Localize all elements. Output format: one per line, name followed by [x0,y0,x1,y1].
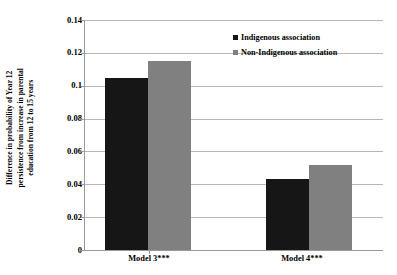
y-axis-tick-label: 0.04 [46,180,82,189]
y-axis-title: Difference in probability of Year 12 per… [0,0,42,255]
legend-label-non-indigenous: Non-Indigenous association [241,48,337,57]
legend: Indigenous association Non-Indigenous as… [233,30,337,60]
bar-indigenous-group-1 [105,78,148,251]
y-axis-tick-label: 0.14 [46,16,82,25]
legend-item-non-indigenous[interactable]: Non-Indigenous association [233,45,337,60]
y-axis-title-line-2: persistence from increase in parental [16,68,27,187]
y-axis-tick-label: 0 [46,246,82,255]
x-axis-label-model-3: Model 3*** [84,254,214,263]
y-axis-tick-mark [81,53,85,54]
y-axis-tick-label: 0.08 [46,114,82,123]
y-axis-tick-labels: 00.020.040.060.080.10.120.14 [44,0,82,275]
legend-label-indigenous: Indigenous association [241,33,320,42]
y-axis-tick-mark [81,119,85,120]
legend-swatch-icon [233,50,238,55]
y-axis-tick-mark [81,20,85,21]
y-axis-tick-label: 0.1 [46,81,82,90]
legend-swatch-icon [233,35,238,40]
y-axis-tick-mark [81,250,85,251]
bar-non-indigenous-group-1 [148,61,191,250]
y-axis-tick-mark [81,184,85,185]
y-axis-title-line-1: Difference in probability of Year 12 [5,68,16,187]
bar-chart: Difference in probability of Year 12 per… [0,0,397,275]
gridline [85,20,383,21]
y-axis-tick-label: 0.12 [46,48,82,57]
y-axis-tick-mark [81,86,85,87]
y-axis-tick-label: 0.06 [46,147,82,156]
y-axis-tick-label: 0.02 [46,213,82,222]
x-axis-label-model-4: Model 4*** [237,254,367,263]
y-axis-tick-mark [81,217,85,218]
y-axis-tick-mark [81,151,85,152]
bar-non-indigenous-group-2 [309,165,352,250]
y-axis-title-line-3: education from 12 to 15 years [26,68,37,187]
legend-item-indigenous[interactable]: Indigenous association [233,30,337,45]
bar-indigenous-group-2 [266,179,309,250]
